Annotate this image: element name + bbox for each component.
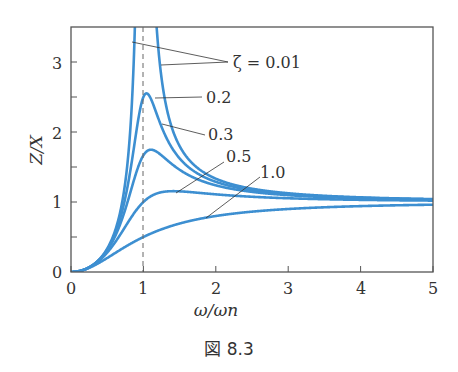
response-curves xyxy=(71,0,433,272)
label-zeta-0.5: 0.5 xyxy=(226,147,251,166)
chart: 0 1 2 3 0 1 2 3 4 5 ω/ωn Z/X ζ = 0.01 0.… xyxy=(0,0,458,372)
y-tick-2: 2 xyxy=(52,124,62,143)
y-tick-1: 1 xyxy=(52,193,62,212)
x-tick-0: 0 xyxy=(66,279,76,298)
y-axis-title: Z/X xyxy=(26,134,46,166)
x-tick-1: 1 xyxy=(138,279,148,298)
label-zeta-0.01: ζ = 0.01 xyxy=(233,53,301,72)
label-zeta-0.3: 0.3 xyxy=(208,125,233,144)
curve-zeta-1 xyxy=(71,205,433,272)
x-tick-5: 5 xyxy=(428,279,438,298)
label-zeta-0.2: 0.2 xyxy=(206,88,231,107)
x-tick-3: 3 xyxy=(283,279,293,298)
figure-caption: 図 8.3 xyxy=(204,339,253,359)
y-tick-0: 0 xyxy=(52,263,62,282)
x-tick-2: 2 xyxy=(211,279,221,298)
label-zeta-1.0: 1.0 xyxy=(260,163,285,182)
axis-ticks xyxy=(71,62,433,272)
curve-zeta-0.01 xyxy=(71,6,135,272)
x-axis-title: ω/ωn xyxy=(194,300,238,320)
curve-zeta-0.01 xyxy=(155,0,433,199)
x-tick-4: 4 xyxy=(356,279,366,298)
y-tick-3: 3 xyxy=(52,54,62,73)
